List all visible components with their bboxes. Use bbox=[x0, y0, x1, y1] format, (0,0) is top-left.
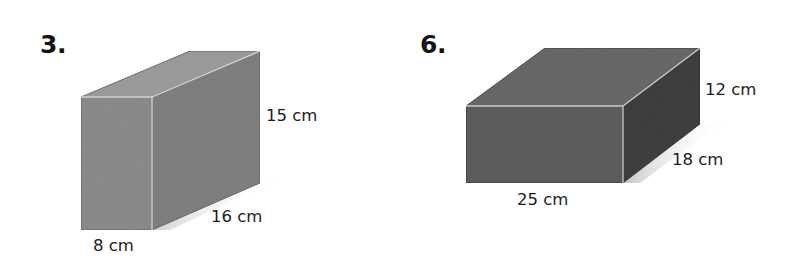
problem-6: 6. 12 cm 18 cm 25 cm bbox=[400, 0, 800, 263]
length-label: 25 cm bbox=[517, 190, 568, 209]
height-label: 12 cm bbox=[705, 80, 756, 99]
problem-3: 3. 15 cm 16 cm 8 cm bbox=[0, 0, 400, 263]
width-label: 8 cm bbox=[93, 236, 134, 255]
width-label: 18 cm bbox=[672, 150, 723, 169]
problem-number: 6. bbox=[420, 30, 446, 59]
height-label: 15 cm bbox=[266, 106, 317, 125]
problem-number: 3. bbox=[40, 30, 66, 59]
length-label: 16 cm bbox=[211, 207, 262, 226]
